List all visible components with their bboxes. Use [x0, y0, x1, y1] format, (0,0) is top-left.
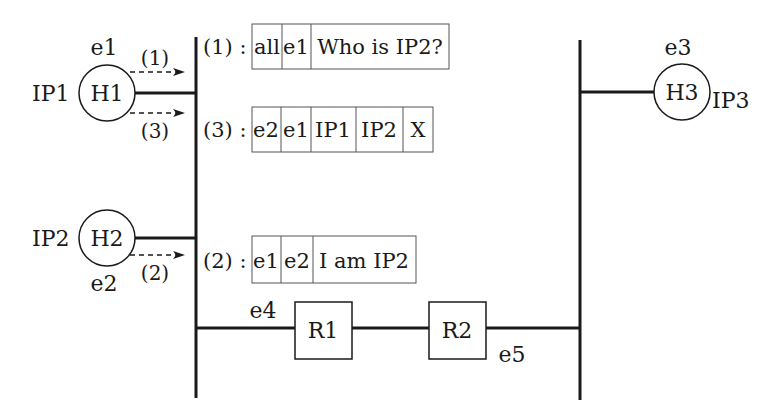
h2-mac: e2 [90, 271, 117, 296]
frame-3: (3) : e2 e1 IP1 IP2 X [203, 107, 433, 152]
frame-2-field: e1 [253, 249, 279, 273]
frame-2: (2) : e1 e2 I am IP2 [203, 236, 416, 283]
frame-1-field: Who is IP2? [317, 35, 443, 59]
host-h1: H1 e1 IP1 [32, 35, 196, 121]
h3-mac: e3 [664, 35, 691, 60]
r2-label: R2 [442, 318, 473, 343]
h1-ip: IP1 [32, 81, 70, 106]
frame-2-field: I am IP2 [319, 249, 409, 273]
r1-mac: e4 [249, 298, 276, 323]
h1-mac: e1 [90, 35, 117, 60]
host-h2: H2 e2 IP2 [32, 210, 196, 296]
frame-3-prefix: (3) : [203, 118, 247, 142]
frame-2-field: e2 [284, 249, 310, 273]
arrow-1-label: (1) [141, 46, 169, 70]
frame-3-field: X [411, 118, 426, 142]
frame-3-field: IP1 [315, 118, 351, 142]
r1-label: R1 [308, 318, 339, 343]
h1-label: H1 [90, 81, 123, 106]
frame-3-field: e1 [283, 118, 309, 142]
frame-3-field: IP2 [361, 118, 397, 142]
arrow-3-label: (3) [141, 119, 169, 143]
frame-1-prefix: (1) : [203, 35, 247, 59]
frame-3-field: e2 [253, 118, 279, 142]
h2-label: H2 [90, 226, 123, 251]
arp-network-diagram: H1 e1 IP1 (1) (3) H2 e2 IP2 (2) H3 e3 IP… [0, 0, 769, 419]
frame-1-field: e1 [283, 35, 309, 59]
router-r2: R2 e5 [429, 302, 526, 367]
h3-ip: IP3 [712, 88, 750, 113]
frame-2-prefix: (2) : [203, 249, 247, 273]
frame-1: (1) : all e1 Who is IP2? [203, 24, 449, 69]
h3-label: H3 [665, 80, 698, 105]
r2-mac: e5 [498, 342, 525, 367]
arrow-2-label: (2) [141, 261, 169, 285]
host-h3: H3 e3 IP3 [580, 35, 750, 120]
frame-1-field: all [254, 35, 280, 59]
h2-ip: IP2 [32, 226, 70, 251]
